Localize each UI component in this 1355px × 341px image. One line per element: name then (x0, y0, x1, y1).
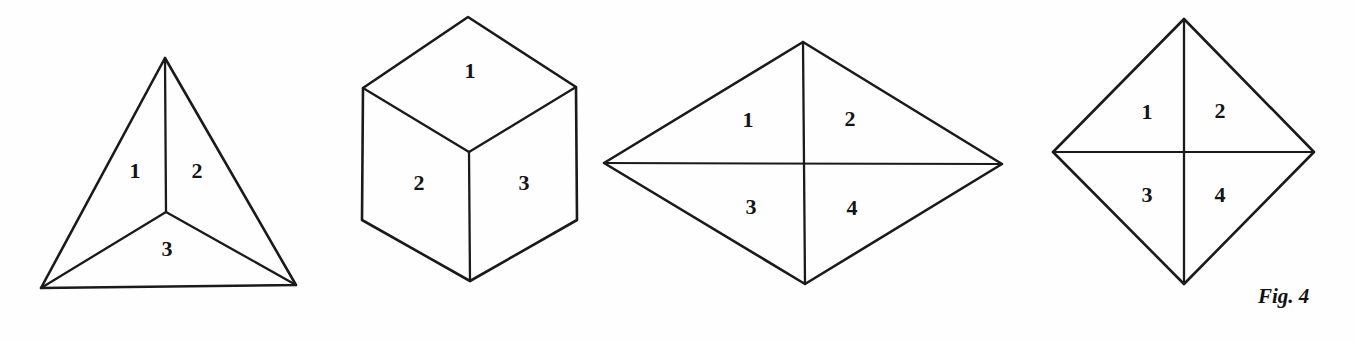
wide-rhombus-face-label-2: 2 (845, 106, 856, 131)
tetrahedron-face-label-1: 1 (130, 158, 141, 183)
tetrahedron-face-label-2: 2 (192, 158, 203, 183)
cube-figure: 1 2 3 (362, 17, 577, 281)
square-diamond-figure: 1 2 3 4 (1053, 19, 1314, 284)
square-diamond-face-label-2: 2 (1215, 98, 1226, 123)
figure-plate: 1 2 3 1 2 3 1 2 3 4 1 2 3 4 Fig. 4 (0, 0, 1355, 341)
cube-face-label-3: 3 (519, 170, 530, 195)
tetrahedron-edge-center-bottom-left (41, 212, 166, 288)
cube-edge-top-right-center (469, 87, 576, 152)
wide-rhombus-face-label-4: 4 (847, 195, 858, 220)
wide-rhombus-vertical-diagonal (803, 42, 805, 284)
wide-rhombus-face-label-1: 1 (743, 107, 754, 132)
tetrahedron-face-label-3: 3 (162, 236, 173, 261)
tetrahedron-edge-apex-center (165, 58, 166, 212)
figure-caption: Fig. 4 (1257, 284, 1309, 308)
tetrahedron-edge-center-bottom-right (166, 212, 296, 285)
square-diamond-face-label-3: 3 (1142, 182, 1153, 207)
square-diamond-face-label-1: 1 (1142, 99, 1153, 124)
wide-rhombus-figure: 1 2 3 4 (604, 42, 1002, 284)
cube-edge-top-left-center (363, 88, 469, 152)
cube-edge-center-bottom (469, 152, 470, 281)
cube-face-label-1: 1 (465, 58, 476, 83)
square-diamond-face-label-4: 4 (1215, 182, 1226, 207)
cube-face-label-2: 2 (414, 170, 425, 195)
tetrahedron-figure: 1 2 3 (41, 58, 296, 288)
wide-rhombus-face-label-3: 3 (746, 194, 757, 219)
